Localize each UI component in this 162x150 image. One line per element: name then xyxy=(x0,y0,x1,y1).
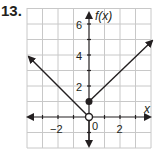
axes xyxy=(28,13,150,146)
x-tick-neg2: −2 xyxy=(50,123,63,135)
open-endpoint xyxy=(86,114,93,121)
x-tick-2: 2 xyxy=(117,123,123,135)
graph: −2 0 2 2 4 6 f(x) x xyxy=(0,0,162,150)
closed-endpoint xyxy=(86,98,93,105)
x-tick-0: 0 xyxy=(92,120,98,132)
y-tick-6: 6 xyxy=(76,19,82,31)
y-tick-4: 4 xyxy=(76,50,82,62)
x-axis-label: x xyxy=(143,102,151,116)
y-tick-2: 2 xyxy=(76,81,82,93)
y-axis-label: f(x) xyxy=(95,9,112,23)
